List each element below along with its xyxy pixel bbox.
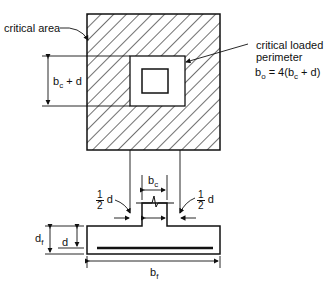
critical-area-label: critical area xyxy=(4,22,60,34)
bcd-rest: + d xyxy=(66,75,82,87)
bc-sub: c xyxy=(154,180,158,189)
plan-view xyxy=(87,14,220,150)
half-d-right-label: 12 d xyxy=(197,190,214,211)
critical-area-leader xyxy=(60,28,88,40)
bo-end: + d) xyxy=(301,66,320,78)
critical-loaded-label: critical loaded xyxy=(256,39,323,51)
bo-eq: = 4(b xyxy=(269,66,294,78)
bc-plus-d-label: bc + d xyxy=(53,75,82,89)
half-d-left-label: 12 d xyxy=(96,190,113,211)
perimeter-label: perimeter xyxy=(256,51,302,63)
section-view xyxy=(45,150,220,268)
bc-label: bc xyxy=(148,174,158,188)
bo-c: c xyxy=(294,72,298,81)
column-square xyxy=(142,69,168,93)
bo-sub: o xyxy=(261,72,265,81)
bcd-sub: c xyxy=(59,81,63,90)
bf-label: bf xyxy=(150,266,158,280)
bo-formula: bo = 4(bc + d) xyxy=(255,66,320,80)
d-label: d xyxy=(62,236,68,248)
df-label: df xyxy=(35,232,43,246)
